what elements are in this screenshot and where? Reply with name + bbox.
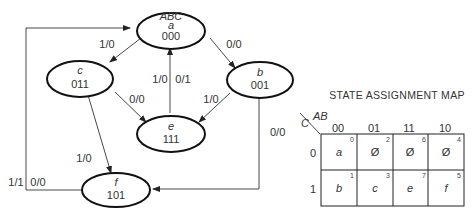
map-row-header: 0	[310, 147, 316, 159]
map-col-header: 01	[368, 122, 380, 134]
state-e: e 111	[137, 116, 205, 152]
state-name: e	[168, 120, 174, 132]
edge-label-c-e: 0/0	[129, 93, 144, 105]
map-col-header: 00	[332, 122, 344, 134]
map-col-header: 10	[439, 122, 451, 134]
map-cell-value: f	[444, 182, 448, 194]
map-cell-value: a	[336, 146, 342, 158]
map-cell-index: 0	[350, 136, 354, 143]
edge-label-f-a-right: 0/0	[30, 176, 45, 188]
edge-label-a-c: 1/0	[99, 38, 114, 50]
edge-label-b-f: 0/0	[270, 126, 285, 138]
map-cell-index: 2	[386, 136, 390, 143]
map-cell-value: Ø	[406, 146, 415, 158]
map-row-header: 1	[310, 183, 316, 195]
edge-label-f-a-left: 1/1	[8, 176, 23, 188]
map-grid	[321, 134, 464, 206]
map-col-var: AB	[312, 110, 328, 122]
map-cell-value: Ø	[442, 146, 451, 158]
edge-label-b-e: 1/0	[203, 93, 218, 105]
map-cell-value: b	[336, 182, 342, 194]
state-name: c	[77, 64, 83, 76]
state-code: 111	[163, 133, 180, 145]
map-cell-index: 1	[350, 172, 354, 179]
state-diagram-canvas: ABC a 000 b 001 c 011 e 111 f 101 1/0 0/…	[0, 0, 475, 222]
map-cell-value: Ø	[371, 146, 380, 158]
edge-label-a-b: 0/0	[226, 38, 241, 50]
map-cell-index: 5	[457, 172, 461, 179]
map-cell-index: 3	[386, 172, 390, 179]
map-cell-index: 6	[422, 136, 426, 143]
map-row-var: C	[301, 117, 309, 129]
edge-label-e-a-right: 0/1	[175, 73, 190, 85]
state-assignment-map: STATE ASSIGNMENT MAP AB C 00 01 11 10 0 …	[300, 89, 465, 206]
edge-label-e-a-left: 1/0	[152, 73, 167, 85]
state-code: 101	[107, 189, 125, 201]
map-title: STATE ASSIGNMENT MAP	[329, 89, 465, 101]
state-name: b	[257, 66, 263, 78]
state-c: c 011	[47, 61, 113, 97]
state-code: 001	[251, 79, 269, 91]
map-cell-value: e	[407, 182, 413, 194]
map-cell-index: 7	[422, 172, 426, 179]
map-cell-value: c	[372, 182, 378, 194]
map-cell-index: 4	[457, 136, 461, 143]
state-b: b 001	[227, 62, 293, 98]
state-code: 011	[71, 78, 89, 90]
edge-label-c-f: 1/0	[76, 152, 91, 164]
state-code: 000	[162, 30, 180, 42]
transition-edges	[26, 28, 259, 190]
state-f: f 101	[82, 173, 150, 207]
map-col-header: 11	[403, 122, 414, 134]
edge-f-to-a	[26, 28, 130, 190]
state-a: ABC a 000	[137, 10, 205, 49]
